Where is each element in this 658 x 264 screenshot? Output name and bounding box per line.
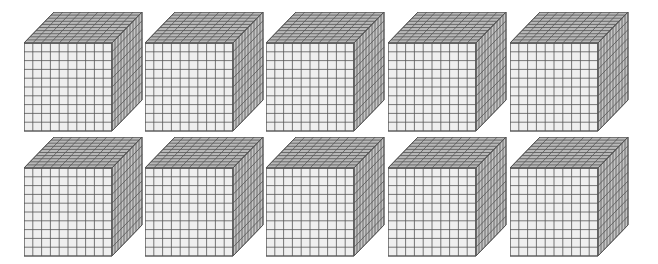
cube-icon [24,137,146,259]
thousand-cube-1 [24,12,146,134]
thousand-cube-8 [266,137,388,259]
cube-icon [388,12,510,134]
cube-icon [266,12,388,134]
cube-icon [266,137,388,259]
thousand-cube-3 [266,12,388,134]
cube-icon [388,137,510,259]
cube-icon [510,137,632,259]
thousand-cube-4 [388,12,510,134]
cube-icon [145,12,267,134]
thousand-cube-6 [24,137,146,259]
thousand-cube-5 [510,12,632,134]
thousand-cube-2 [145,12,267,134]
cube-icon [24,12,146,134]
thousand-cube-9 [388,137,510,259]
thousand-cube-7 [145,137,267,259]
cube-icon [145,137,267,259]
thousand-cube-10 [510,137,632,259]
cube-icon [510,12,632,134]
